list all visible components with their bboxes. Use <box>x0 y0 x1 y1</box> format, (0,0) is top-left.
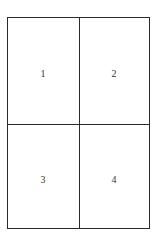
cell-label-4: 4 <box>112 175 117 185</box>
vertical-divider <box>79 18 80 228</box>
page-grid: 1 2 3 4 <box>7 17 150 229</box>
cell-label-2: 2 <box>112 69 117 79</box>
horizontal-divider <box>8 124 149 125</box>
cell-label-1: 1 <box>41 69 46 79</box>
cell-label-3: 3 <box>41 175 46 185</box>
